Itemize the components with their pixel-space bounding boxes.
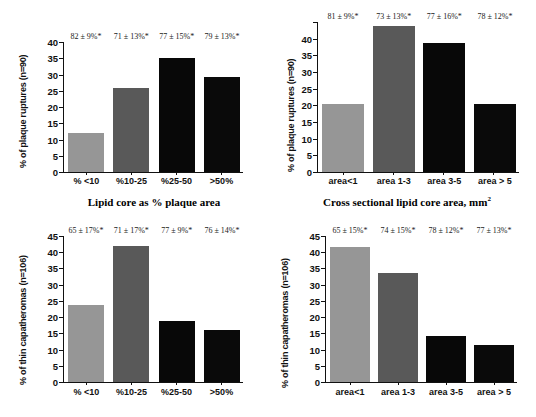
x-axis-line <box>63 382 243 383</box>
plot-area: 0 5 10 15 20 25 30 35 40 81 ± 9%* 73 ± 1… <box>318 22 518 172</box>
x-tick <box>176 382 177 385</box>
x-axis-line <box>317 172 519 173</box>
x-tick-label: % <10 <box>64 176 109 186</box>
bar-column[interactable]: 65 ± 15%* <box>330 236 370 382</box>
bar[interactable] <box>322 104 364 172</box>
x-tick <box>131 172 132 175</box>
bar-column[interactable]: 78 ± 12%* <box>426 236 466 382</box>
bar-value-label: 65 ± 15%* <box>332 226 367 235</box>
x-tick <box>493 172 494 175</box>
x-tick-label: %25-50 <box>154 387 199 397</box>
bar-value-label: 71 ± 13%* <box>114 32 149 41</box>
x-tick-label: area > 5 <box>470 176 520 186</box>
x-tick-label: >50% <box>199 176 244 186</box>
bar-column[interactable]: 81 ± 9%* <box>322 22 364 172</box>
y-tick <box>321 236 325 237</box>
x-tick <box>343 172 344 175</box>
y-tick-label: 5 <box>266 150 312 161</box>
y-tick-label: 40 <box>12 247 58 258</box>
bar-value-label: 79 ± 13%* <box>204 32 239 41</box>
y-tick <box>59 91 63 92</box>
x-axis-line <box>63 172 243 173</box>
bar-value-label: 77 ± 13%* <box>476 226 511 235</box>
bar-column[interactable]: 73 ± 13%* <box>373 22 415 172</box>
x-tick-label: area 1-3 <box>369 176 419 186</box>
bar-group: 82 ± 9%* 71 ± 13%* 77 ± 15%* 79 ± 13%* <box>68 42 240 172</box>
bar-column[interactable]: 79 ± 13%* <box>204 42 240 172</box>
bar-column[interactable]: 65 ± 17%* <box>68 236 104 382</box>
panel-caption-superscript: 2 <box>487 195 491 203</box>
bar[interactable] <box>426 336 466 382</box>
bar-group: 65 ± 17%* 71 ± 17%* 77 ± 9%* 76 ± 14%* <box>68 236 240 382</box>
y-tick-label: 0 <box>266 167 312 178</box>
bar-group: 81 ± 9%* 73 ± 13%* 77 ± 16%* 78 ± 12%* <box>322 22 516 172</box>
y-tick <box>59 366 63 367</box>
bar[interactable] <box>373 26 415 172</box>
bar-value-label: 77 ± 16%* <box>427 12 462 21</box>
x-tick <box>131 382 132 385</box>
bar[interactable] <box>204 330 240 382</box>
y-tick <box>321 252 325 253</box>
y-tick-label: 5 <box>12 150 58 161</box>
bar-column[interactable]: 71 ± 13%* <box>113 42 149 172</box>
bar[interactable] <box>474 345 514 382</box>
x-axis-labels: % <10 %10-25 %25-50 >50% <box>64 176 244 186</box>
x-tick-label: %10-25 <box>109 176 154 186</box>
plot-area: 0 5 10 15 20 25 30 35 40 45 65 ± 15%* 74… <box>326 236 516 382</box>
bar[interactable] <box>159 58 195 172</box>
y-tick-label: 10 <box>266 133 312 144</box>
x-axis-labels: area<1 area 1-3 area 3-5 area > 5 <box>318 176 520 186</box>
x-tick-label: >50% <box>199 387 244 397</box>
y-tick <box>313 105 317 106</box>
x-axis-labels: % <10 %10-25 %25-50 >50% <box>64 387 244 397</box>
bar-column[interactable]: 74 ± 15%* <box>378 236 418 382</box>
y-tick-label: 0 <box>12 377 58 388</box>
bar-column[interactable]: 77 ± 16%* <box>423 22 465 172</box>
figure-root: % of plaque ruptures (n=90) 0 5 10 15 20… <box>0 0 536 417</box>
bar-column[interactable]: 76 ± 14%* <box>204 236 240 382</box>
bar[interactable] <box>68 133 104 172</box>
bar[interactable] <box>159 321 195 382</box>
bar-column[interactable]: 71 ± 17%* <box>113 236 149 382</box>
y-tick <box>59 252 63 253</box>
y-tick <box>313 122 317 123</box>
bar[interactable] <box>423 43 465 172</box>
x-tick <box>86 172 87 175</box>
y-tick <box>321 350 325 351</box>
y-tick <box>59 301 63 302</box>
y-tick-label: 10 <box>274 344 320 355</box>
panel-plaque-ruptures-cross-sectional-area: % of plaque ruptures (n=90) 0 5 10 15 20… <box>268 0 536 210</box>
bar[interactable] <box>68 305 104 382</box>
bar-value-label: 71 ± 17%* <box>114 226 149 235</box>
y-tick <box>321 301 325 302</box>
y-tick <box>321 268 325 269</box>
y-tick-label: 15 <box>274 328 320 339</box>
bar-column[interactable]: 82 ± 9%* <box>68 42 104 172</box>
y-tick <box>321 285 325 286</box>
y-tick <box>59 382 63 383</box>
bar[interactable] <box>113 246 149 382</box>
bar-column[interactable]: 77 ± 15%* <box>159 42 195 172</box>
bar[interactable] <box>204 77 240 172</box>
bar[interactable] <box>113 88 149 173</box>
y-tick-label: 30 <box>266 67 312 78</box>
bar-column[interactable]: 78 ± 12%* <box>474 22 516 172</box>
y-tick-label: 30 <box>274 279 320 290</box>
x-tick-label: area 1-3 <box>374 387 422 397</box>
y-tick-label: 10 <box>12 344 58 355</box>
y-tick-label: 35 <box>12 263 58 274</box>
y-tick <box>59 268 63 269</box>
x-tick <box>86 382 87 385</box>
x-tick-label: area 3-5 <box>422 387 470 397</box>
bar[interactable] <box>474 104 516 172</box>
bar[interactable] <box>378 273 418 382</box>
x-axis-labels: area<1 area 1-3 area 3-5 area > 5 <box>326 387 518 397</box>
panel-thin-capatheromas-cross-sectional-area: % of thin capatheromas (n=106) 0 5 10 15… <box>268 210 536 417</box>
y-tick-label: 30 <box>12 69 58 80</box>
bar-value-label: 73 ± 13%* <box>376 12 411 21</box>
bar-column[interactable]: 77 ± 9%* <box>159 236 195 382</box>
x-tick <box>494 382 495 385</box>
bar[interactable] <box>330 247 370 382</box>
y-tick <box>59 140 63 141</box>
bar-column[interactable]: 77 ± 13%* <box>474 236 514 382</box>
